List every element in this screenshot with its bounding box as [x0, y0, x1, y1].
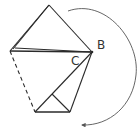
folding-diagram: B C	[0, 0, 140, 135]
edge-top-left-double	[13, 5, 49, 49]
top-triangle	[10, 5, 92, 52]
edge-left-dashed	[10, 51, 35, 112]
label-c: C	[71, 54, 79, 68]
diagonal-bottom-left-to-b	[35, 52, 92, 112]
lower-pentagon	[10, 51, 92, 112]
inner-fold-segment	[52, 94, 70, 112]
edge-top-right	[49, 5, 92, 52]
vertex-b-dot	[91, 51, 94, 54]
label-b: B	[97, 38, 105, 52]
